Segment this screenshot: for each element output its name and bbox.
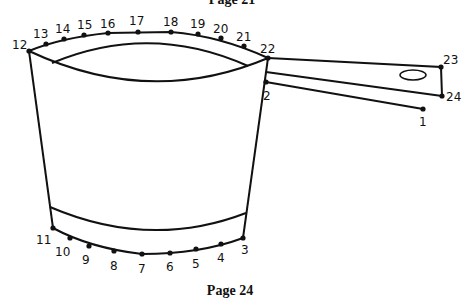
dot-label-13: 13 <box>33 27 48 41</box>
connect-the-dots-puzzle: Page 21 12345678910111213141516171819202… <box>0 0 465 299</box>
dot-label-19: 19 <box>190 17 205 31</box>
dot-label-18: 18 <box>163 15 178 29</box>
dot-7 <box>139 251 144 256</box>
dot-6 <box>167 250 172 255</box>
dot-20 <box>218 35 223 40</box>
dot-11 <box>50 225 55 230</box>
dot-label-23: 23 <box>443 53 458 67</box>
dot-label-10: 10 <box>55 245 70 259</box>
dot-label-12: 12 <box>12 38 27 52</box>
dot-label-11: 11 <box>36 233 51 247</box>
dot-10 <box>67 235 72 240</box>
dot-label-4: 4 <box>217 251 225 265</box>
dot-1 <box>420 106 425 111</box>
handle-hole <box>400 70 426 80</box>
dot-label-1: 1 <box>419 115 427 129</box>
dot-label-15: 15 <box>77 18 92 32</box>
dot-label-20: 20 <box>213 22 228 36</box>
dot-14 <box>61 36 66 41</box>
dot-22 <box>265 55 270 60</box>
dot-label-3: 3 <box>241 243 249 257</box>
dot-label-8: 8 <box>110 259 118 273</box>
dot-13 <box>43 41 48 46</box>
dot-4 <box>218 241 223 246</box>
dot-21 <box>241 43 246 48</box>
dot-label-9: 9 <box>82 253 90 267</box>
header-page-label: Page 21 <box>209 0 255 7</box>
dot-16 <box>105 30 110 35</box>
dot-5 <box>193 246 198 251</box>
dot-label-16: 16 <box>100 17 115 31</box>
dot-15 <box>81 32 86 37</box>
dot-18 <box>168 29 173 34</box>
dot-3 <box>240 235 245 240</box>
dot-label-6: 6 <box>166 260 174 274</box>
dot-8 <box>111 248 116 253</box>
dot-label-21: 21 <box>236 30 251 44</box>
dot-label-14: 14 <box>55 22 70 36</box>
dot-9 <box>86 243 91 248</box>
dot-24 <box>439 93 444 98</box>
dot-label-17: 17 <box>129 14 144 28</box>
dot-label-2: 2 <box>263 89 271 103</box>
dot-label-24: 24 <box>446 90 461 104</box>
dot-2 <box>263 79 268 84</box>
dot-label-22: 22 <box>260 42 275 56</box>
footer-page-label: Page 24 <box>207 283 253 298</box>
dot-label-7: 7 <box>138 262 146 276</box>
dot-17 <box>135 29 140 34</box>
pot-outline <box>29 32 442 254</box>
dot-label-5: 5 <box>192 257 200 271</box>
dot-19 <box>195 31 200 36</box>
